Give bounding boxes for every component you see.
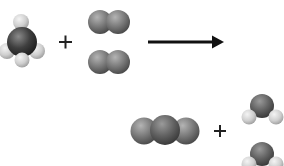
oxygen-molecule [88,50,130,74]
plus-sign [214,125,226,137]
water-molecule [242,142,284,166]
water-molecule [242,94,284,125]
hydrogen-atom [269,110,284,125]
reaction-arrow-icon [148,36,224,49]
oxygen-atom [106,10,130,34]
carbon-dioxide-molecule [131,115,200,145]
carbon-atom [150,115,180,145]
oxygen-atom [106,50,130,74]
methane-molecule [0,14,45,68]
hydrogen-atom [15,53,30,68]
oxygen-molecule [88,10,130,34]
hydrogen-atom [242,110,257,125]
reaction-diagram [0,0,284,166]
plus-sign [59,36,72,49]
